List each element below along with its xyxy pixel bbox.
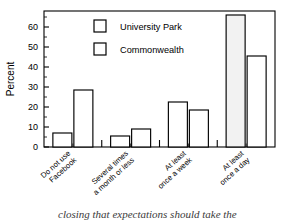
x-category-label-3: At leastonce a day	[212, 148, 252, 187]
y-tick-label-20: 20	[28, 102, 38, 112]
y-tick-label-60: 60	[28, 22, 38, 32]
bar-0-2[interactable]	[168, 102, 187, 147]
legend-swatch-0[interactable]	[94, 20, 106, 32]
bar-1-0[interactable]	[74, 90, 93, 147]
x-category-label-0: Do not useFacebook	[39, 149, 78, 187]
legend-swatch-1[interactable]	[94, 43, 106, 55]
bar-chart: 0102030405060PercentDo not useFacebookSe…	[0, 0, 281, 220]
chart-figure: 0102030405060PercentDo not useFacebookSe…	[0, 0, 281, 220]
x-category-label-1: Several timesa month or less	[85, 149, 136, 197]
legend-label-1: Commonwealth	[120, 45, 184, 55]
bar-0-1[interactable]	[111, 136, 130, 147]
y-tick-label-0: 0	[33, 142, 38, 152]
caption-text: closing that expectations should take th…	[58, 208, 237, 220]
bar-0-0[interactable]	[53, 133, 72, 147]
bar-1-2[interactable]	[189, 110, 208, 147]
y-tick-label-30: 30	[28, 82, 38, 92]
bar-0-3[interactable]	[226, 15, 245, 147]
caption-fragment: closing that expectations should take th…	[58, 208, 237, 220]
y-axis-title: Percent	[5, 62, 16, 97]
legend-label-0: University Park	[120, 22, 182, 32]
bar-1-3[interactable]	[247, 56, 266, 147]
bar-1-1[interactable]	[132, 129, 151, 147]
y-tick-label-40: 40	[28, 62, 38, 72]
y-tick-label-10: 10	[28, 122, 38, 132]
x-category-label-2: At leastonce a week	[150, 148, 194, 191]
y-tick-label-50: 50	[28, 42, 38, 52]
